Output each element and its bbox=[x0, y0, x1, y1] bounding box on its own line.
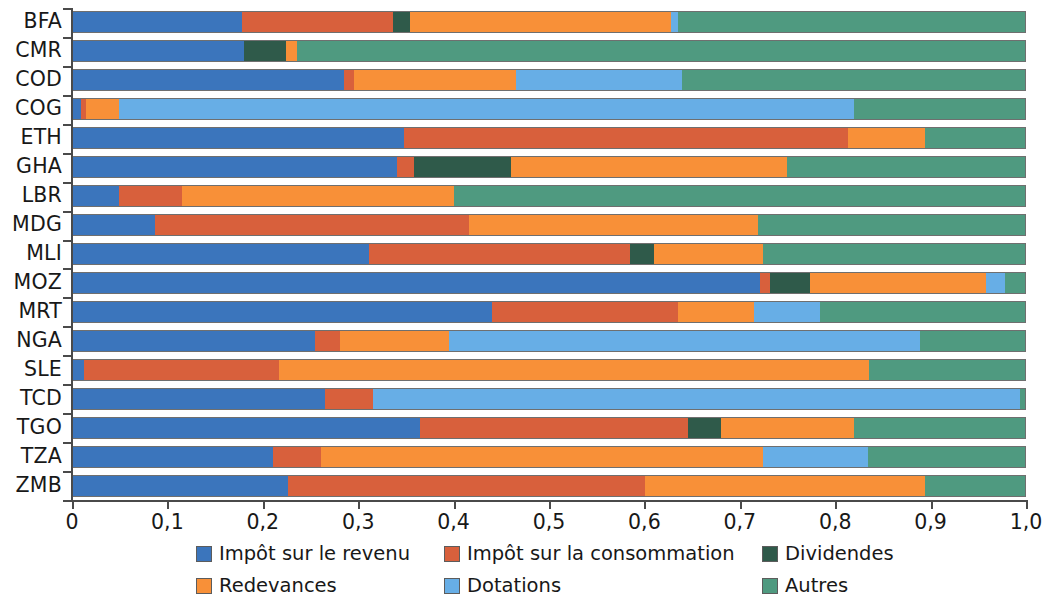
legend-label: Autres bbox=[785, 576, 848, 596]
bar-track-moz bbox=[72, 272, 1026, 294]
bar-segment bbox=[454, 186, 1025, 206]
bar-segment bbox=[760, 273, 770, 293]
y-axis-label-eth: ETH bbox=[0, 125, 62, 149]
x-axis-label: 0,4 bbox=[414, 510, 494, 534]
x-axis-tick bbox=[740, 500, 742, 509]
bar-segment bbox=[73, 215, 155, 235]
y-axis-label-bfa: BFA bbox=[0, 9, 62, 33]
bar-row bbox=[72, 417, 1026, 439]
chart-legend: Impôt sur le revenuImpôt sur la consomma… bbox=[196, 544, 1026, 596]
bar-segment bbox=[119, 99, 854, 119]
bar-track-tza bbox=[72, 446, 1026, 468]
bar-segment bbox=[244, 41, 286, 61]
bar-row bbox=[72, 11, 1026, 33]
x-axis-tick bbox=[835, 500, 837, 509]
y-axis-tick bbox=[63, 326, 72, 328]
bar-track-eth bbox=[72, 127, 1026, 149]
x-axis-tick bbox=[931, 500, 933, 509]
legend-item[interactable]: Impôt sur la consommation bbox=[444, 544, 735, 564]
y-axis-tick bbox=[63, 413, 72, 415]
bar-segment bbox=[404, 128, 848, 148]
bar-row bbox=[72, 156, 1026, 178]
bar-segment bbox=[754, 302, 821, 322]
bar-row bbox=[72, 475, 1026, 497]
y-axis-tick bbox=[63, 471, 72, 473]
y-axis-label-mrt: MRT bbox=[0, 299, 62, 323]
legend-swatch-icon bbox=[196, 578, 212, 594]
x-axis-tick bbox=[644, 500, 646, 509]
bar-track-zmb bbox=[72, 475, 1026, 497]
bar-segment bbox=[654, 244, 763, 264]
bar-segment bbox=[369, 244, 630, 264]
bar-segment bbox=[1005, 273, 1025, 293]
bar-segment bbox=[73, 70, 344, 90]
x-axis-tick bbox=[167, 500, 169, 509]
legend-swatch-icon bbox=[444, 546, 460, 562]
x-axis-label: 0,2 bbox=[223, 510, 303, 534]
bar-segment bbox=[854, 99, 1025, 119]
bar-segment bbox=[73, 418, 420, 438]
bar-segment bbox=[449, 331, 920, 351]
bar-row bbox=[72, 69, 1026, 91]
bar-segment bbox=[344, 70, 354, 90]
plot-area bbox=[72, 8, 1026, 500]
bar-segment bbox=[645, 476, 925, 496]
y-axis-tick bbox=[63, 268, 72, 270]
legend-item[interactable]: Redevances bbox=[196, 576, 337, 596]
y-axis-label-mdg: MDG bbox=[0, 212, 62, 236]
bar-segment bbox=[925, 128, 1025, 148]
x-axis-tick bbox=[358, 500, 360, 509]
legend-item[interactable]: Dividendes bbox=[762, 544, 894, 564]
bar-track-tcd bbox=[72, 388, 1026, 410]
bar-segment bbox=[325, 389, 373, 409]
legend-item[interactable]: Dotations bbox=[444, 576, 561, 596]
bar-segment bbox=[516, 70, 683, 90]
legend-item[interactable]: Autres bbox=[762, 576, 848, 596]
bar-row bbox=[72, 214, 1026, 236]
x-axis-label: 1,0 bbox=[986, 510, 1046, 534]
bar-segment bbox=[920, 331, 1025, 351]
bar-track-lbr bbox=[72, 185, 1026, 207]
bar-segment bbox=[420, 418, 688, 438]
bar-segment bbox=[273, 447, 321, 467]
bar-segment bbox=[354, 70, 516, 90]
y-axis-label-sle: SLE bbox=[0, 357, 62, 381]
y-axis-label-cog: COG bbox=[0, 96, 62, 120]
y-axis-tick bbox=[63, 384, 72, 386]
legend-label: Dotations bbox=[467, 576, 561, 596]
legend-swatch-icon bbox=[196, 546, 212, 562]
y-axis-label-lbr: LBR bbox=[0, 183, 62, 207]
bar-segment bbox=[73, 360, 84, 380]
bar-row bbox=[72, 127, 1026, 149]
x-axis-tick bbox=[549, 500, 551, 509]
bar-segment bbox=[986, 273, 1005, 293]
y-axis-label-zmb: ZMB bbox=[0, 473, 62, 497]
bar-segment bbox=[393, 12, 410, 32]
y-axis-label-gha: GHA bbox=[0, 154, 62, 178]
bar-track-bfa bbox=[72, 11, 1026, 33]
y-axis-tick bbox=[63, 182, 72, 184]
bar-segment bbox=[721, 418, 853, 438]
y-axis-label-moz: MOZ bbox=[0, 270, 62, 294]
x-axis-label: 0,7 bbox=[700, 510, 780, 534]
bar-segment bbox=[678, 302, 753, 322]
bar-row bbox=[72, 40, 1026, 62]
bar-track-tgo bbox=[72, 417, 1026, 439]
bar-segment bbox=[119, 186, 182, 206]
bar-segment bbox=[73, 99, 81, 119]
bar-segment bbox=[810, 273, 986, 293]
legend-item[interactable]: Impôt sur le revenu bbox=[196, 544, 410, 564]
x-axis-label: 0 bbox=[32, 510, 112, 534]
bar-segment bbox=[1020, 389, 1025, 409]
bar-segment bbox=[397, 157, 414, 177]
bar-segment bbox=[373, 389, 1020, 409]
y-axis-label-cmr: CMR bbox=[0, 38, 62, 62]
y-axis-label-mli: MLI bbox=[0, 241, 62, 265]
y-axis-tick bbox=[63, 124, 72, 126]
legend-swatch-icon bbox=[444, 578, 460, 594]
bar-segment bbox=[770, 273, 810, 293]
bar-segment bbox=[73, 244, 369, 264]
x-axis-label: 0,5 bbox=[509, 510, 589, 534]
bar-segment bbox=[925, 476, 1025, 496]
bar-row bbox=[72, 359, 1026, 381]
